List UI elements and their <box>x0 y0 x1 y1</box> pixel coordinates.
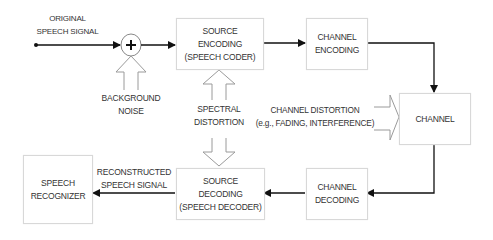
background-noise-hollow-arrow <box>116 56 146 90</box>
source-decoding-block: SOURCE DECODING (SPEECH DECODER) <box>176 168 265 220</box>
spectral-distortion-label: SPECTRAL DISTORTION <box>184 103 254 129</box>
source-encoding-block: SOURCE ENCODING (SPEECH CODER) <box>176 18 264 70</box>
channel-encoding-block: CHANNEL ENCODING <box>306 18 368 70</box>
speech-recognizer-block: SPEECH RECOGNIZER <box>23 155 93 224</box>
channel-decoding-text: CHANNEL DECODING <box>315 181 359 207</box>
source-encoding-text: SOURCE ENCODING (SPEECH CODER) <box>185 25 256 64</box>
arrow-channel-encoding-to-channel <box>366 43 434 92</box>
source-decoding-text: SOURCE DECODING (SPEECH DECODER) <box>179 175 261 214</box>
channel-decoding-block: CHANNEL DECODING <box>306 168 368 220</box>
channel-distortion-label: CHANNEL DISTORTION (e.g., FADING, INTERF… <box>255 104 375 130</box>
channel-text: CHANNEL <box>415 113 454 126</box>
channel-block: CHANNEL <box>399 93 471 145</box>
arrow-channel-to-channel-decoding <box>367 143 434 193</box>
adder-circle <box>121 34 141 56</box>
channel-encoding-text: CHANNEL ENCODING <box>315 31 359 57</box>
original-speech-signal-label: ORIGINAL SPEECH SIGNAL <box>30 12 105 38</box>
input-arrow <box>34 43 120 47</box>
background-noise-label: BACKGROUND NOISE <box>98 92 164 118</box>
speech-recognizer-text: SPEECH RECOGNIZER <box>31 177 86 203</box>
channel-distortion-hollow-arrow <box>374 95 399 140</box>
spectral-distortion-down-arrow <box>203 138 235 166</box>
reconstructed-speech-signal-label: RECONSTRUCTED SPEECH SIGNAL <box>96 166 172 192</box>
spectral-distortion-up-arrow <box>203 70 235 100</box>
